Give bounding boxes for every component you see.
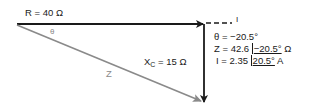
current-result: I = 2.35 20.5° A	[216, 55, 283, 66]
resistance-label: R = 40 Ω	[25, 7, 63, 18]
current-label: I	[236, 14, 238, 25]
z-unit: Ω	[282, 43, 292, 54]
impedance-result: Z = 42.6 −20.5° Ω	[214, 43, 291, 54]
impedance-label: Z	[106, 68, 112, 79]
i-angle: 20.5°	[251, 55, 275, 66]
z-angle: −20.5°	[252, 43, 282, 54]
reactance-subscript: C	[150, 61, 155, 68]
reactance-label: XC = 15 Ω	[144, 56, 187, 68]
theta-result: θ = −20.5°	[214, 31, 258, 42]
reactance-value: = 15 Ω	[155, 56, 186, 67]
i-prefix: I = 2.35	[216, 55, 251, 66]
z-prefix: Z = 42.6	[214, 43, 252, 54]
i-unit: A	[275, 55, 283, 66]
theta-label: θ	[50, 26, 54, 37]
